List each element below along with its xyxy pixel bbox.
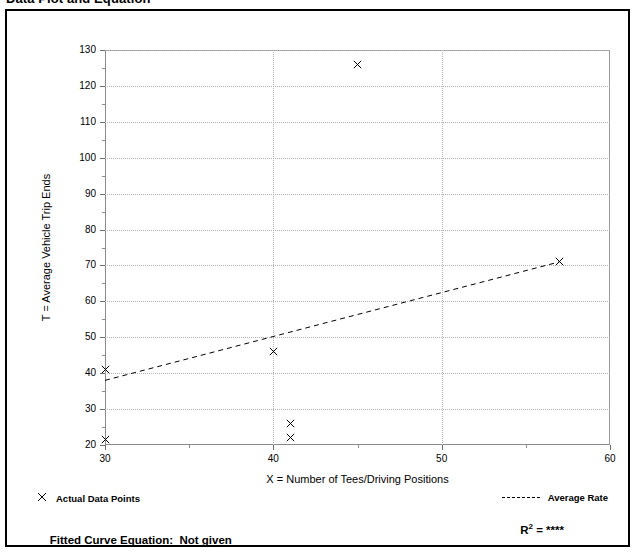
y-tick-label: 20 [85, 440, 96, 450]
y-tick-label: 30 [85, 404, 96, 414]
x-axis-title: X = Number of Tees/Driving Positions [105, 473, 610, 485]
dashed-line-swatch-icon [502, 497, 540, 498]
data-point-marker [101, 365, 110, 374]
x-tick [610, 445, 611, 450]
rsq-equals: = [533, 524, 546, 536]
y-tick-label: 80 [85, 225, 96, 235]
y-tick-label: 130 [79, 45, 96, 55]
chart-footer: Fitted Curve Equation: Not given R2 = **… [5, 522, 630, 546]
legend-item-average-rate: Average Rate [502, 492, 608, 503]
y-axis-title: T = Average Vehicle Trip Ends [39, 50, 53, 445]
average-rate-line [105, 50, 610, 445]
x-tick-minor [526, 445, 527, 448]
page-title: Data Plot and Equation [6, 0, 150, 6]
y-tick-label: 70 [85, 260, 96, 270]
x-tick-label: 30 [99, 454, 110, 464]
y-tick-label: 50 [85, 332, 96, 342]
y-tick-label: 40 [85, 368, 96, 378]
legend-item-points: Actual Data Points [37, 492, 140, 504]
legend-label-points: Actual Data Points [56, 493, 140, 504]
rsq-stars: **** [546, 524, 564, 536]
legend-label-average-rate: Average Rate [548, 492, 608, 503]
x-tick-minor [189, 445, 190, 448]
data-point-marker [101, 435, 110, 444]
x-cross-marker-icon [37, 492, 47, 504]
y-tick-label: 60 [85, 296, 96, 306]
data-point-marker [269, 347, 278, 356]
y-tick-label: 110 [80, 117, 96, 127]
trend-line [105, 262, 560, 381]
y-tick-label: 100 [79, 153, 96, 163]
x-tick-minor [358, 445, 359, 448]
data-point-marker [286, 433, 295, 442]
fitted-curve-equation: Fitted Curve Equation: Not given [37, 522, 232, 553]
data-point-marker [555, 257, 564, 266]
y-tick-label: 120 [79, 81, 96, 91]
data-point-marker [286, 419, 295, 428]
equation-label: Fitted Curve Equation: [50, 534, 173, 546]
r-squared-value: R2 = **** [520, 522, 564, 536]
x-tick [273, 445, 274, 450]
x-tick-label: 40 [268, 454, 279, 464]
plot-area: 203040506070809010011012013030405060 [105, 50, 610, 445]
x-tick [442, 445, 443, 450]
x-tick-label: 60 [604, 454, 615, 464]
chart-panel: T = Average Vehicle Trip Ends X = Number… [5, 9, 630, 547]
data-point-marker [353, 60, 362, 69]
equation-value: Not given [179, 534, 231, 546]
rsq-label: R [520, 524, 528, 536]
legend: Actual Data Points Average Rate [5, 492, 630, 514]
y-tick-label: 90 [85, 189, 96, 199]
x-tick [105, 445, 106, 450]
x-tick-label: 50 [436, 454, 447, 464]
